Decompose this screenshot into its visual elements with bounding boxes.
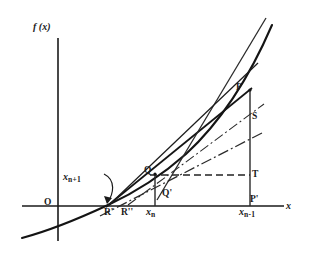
origin-label: O: [44, 198, 51, 208]
point-label-q-prime: Q': [162, 189, 172, 199]
axis-value-xn-minus-1-subscript: n-1: [244, 210, 255, 219]
y-axis-label: f (x): [33, 22, 51, 32]
chord-line-r-prime-to-p: [106, 88, 252, 207]
figure-canvas: [0, 0, 311, 263]
point-label-q: Q: [144, 166, 151, 176]
point-label-r-prime: R': [104, 208, 114, 218]
point-label-s: S: [252, 112, 257, 122]
point-label-p: P: [236, 83, 242, 93]
point-dot-p: [248, 88, 251, 91]
dash-dot-upper-line: [128, 104, 264, 205]
axis-value-xn-subscript: n: [151, 210, 155, 219]
annotation-label-xn-plus-1: xn+1: [63, 172, 81, 182]
x-axis-label: x: [286, 201, 291, 211]
point-label-r-double-prime: R'': [121, 208, 133, 218]
annotation-label-subscript: n+1: [68, 175, 81, 184]
point-label-t: T: [252, 170, 258, 180]
point-label-p-prime: P': [250, 195, 258, 205]
newton-method-figure: f (x) x O P S T P' Q Q' R' R'' xn xn-1 x…: [0, 0, 311, 263]
point-dot-q: [153, 172, 156, 175]
axis-value-xn-minus-1: xn-1: [239, 207, 255, 217]
axis-value-xn: xn: [146, 207, 155, 217]
